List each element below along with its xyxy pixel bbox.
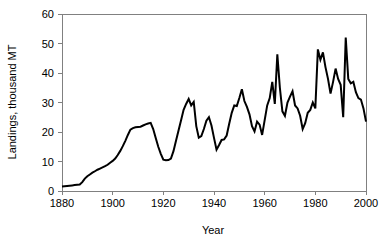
y-tick-label: 50 xyxy=(42,38,54,50)
x-tick-label: 1880 xyxy=(50,197,74,209)
x-tick-label: 1900 xyxy=(100,197,124,209)
x-axis-title: Year xyxy=(202,224,225,236)
x-tick-label: 1940 xyxy=(202,197,226,209)
y-tick-label: 60 xyxy=(42,8,54,20)
x-tick-label: 1980 xyxy=(303,197,327,209)
line-chart: 0102030405060 18801900192019401960198020… xyxy=(0,0,384,242)
y-axis-title: Landings, thousand MT xyxy=(6,44,18,159)
chart-figure: 0102030405060 18801900192019401960198020… xyxy=(0,0,384,242)
x-tick-label: 2000 xyxy=(354,197,378,209)
y-tick-label: 40 xyxy=(42,67,54,79)
x-tick-label: 1960 xyxy=(252,197,276,209)
x-tick-label: 1920 xyxy=(151,197,175,209)
y-tick-label: 0 xyxy=(48,185,54,197)
y-tick-label: 20 xyxy=(42,126,54,138)
y-tick-label: 30 xyxy=(42,97,54,109)
y-tick-label: 10 xyxy=(42,156,54,168)
